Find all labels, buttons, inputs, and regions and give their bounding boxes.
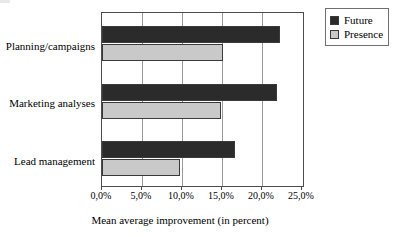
- x-tick-label: 20,0%: [248, 190, 274, 202]
- legend-swatch-icon: [330, 16, 339, 25]
- category-label-planning: Planning/campaigns: [0, 40, 95, 52]
- x-tick-label: 10,0%: [168, 190, 194, 202]
- scan-artifact: [0, 0, 10, 3]
- bar-future: [102, 141, 235, 158]
- bar-future: [102, 84, 277, 101]
- legend-label: Future: [344, 13, 373, 27]
- x-tick-label: 5,0%: [131, 190, 152, 202]
- x-axis-title: Mean average improvement (in percent): [0, 214, 404, 227]
- bar-future: [102, 26, 280, 43]
- x-tick-label: 15,0%: [208, 190, 234, 202]
- bar-presence: [102, 159, 180, 176]
- bar-chart: Planning/campaigns Marketing analyses Le…: [0, 0, 404, 237]
- legend-label: Presence: [344, 27, 383, 41]
- x-axis-title-text: Mean average improvement (in percent): [91, 214, 268, 227]
- bar-presence: [102, 44, 223, 61]
- legend-item-presence: Presence: [330, 27, 383, 41]
- bar-group: [102, 17, 303, 75]
- bar-presence: [102, 102, 221, 119]
- plot-area: [101, 12, 304, 187]
- legend-swatch-icon: [330, 30, 339, 39]
- legend-item-future: Future: [330, 13, 383, 27]
- bar-group: [102, 75, 303, 133]
- category-label-marketing: Marketing analyses: [0, 97, 95, 109]
- category-label-lead: Lead management: [0, 155, 95, 167]
- legend: Future Presence: [325, 8, 389, 46]
- x-tick-label: 0,0%: [91, 190, 112, 202]
- bar-group: [102, 132, 303, 190]
- x-tick-label: 25,0%: [288, 190, 314, 202]
